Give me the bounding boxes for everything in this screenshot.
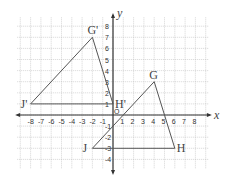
svg-text:-6: -6 [48,118,54,125]
x-arrow-icon [207,113,212,117]
vertex-label: G [149,68,158,82]
vertex-label: H' [115,97,126,111]
svg-text:7: 7 [182,118,186,125]
vertex-label: G' [87,23,98,37]
axes: xyO [15,6,220,175]
svg-text:8: 8 [192,118,196,125]
svg-text:2: 2 [105,90,109,97]
svg-text:8: 8 [105,23,109,30]
svg-text:3: 3 [141,118,145,125]
svg-text:-7: -7 [38,118,44,125]
svg-text:2: 2 [131,118,135,125]
svg-text:4: 4 [105,68,109,75]
vertex-label: J' [21,97,28,111]
x-axis-label: x [213,108,220,122]
svg-text:-8: -8 [28,118,34,125]
vertex-label: H [177,141,186,155]
tick-labels: -8-7-6-5-4-3-2-11234567887654321-1-2-3-4 [28,23,197,163]
svg-text:6: 6 [172,118,176,125]
triangles: GHJG'H'J' [21,23,186,155]
svg-text:-3: -3 [79,118,85,125]
svg-text:4: 4 [151,118,155,125]
y-arrow-icon [111,13,115,18]
svg-text:6: 6 [105,45,109,52]
vertex-label: J [82,141,87,155]
svg-text:-5: -5 [59,118,65,125]
svg-text:1: 1 [120,118,124,125]
coordinate-plane: xyO -8-7-6-5-4-3-2-11234567887654321-1-2… [0,0,231,182]
x-arrow-left-icon [15,113,20,117]
svg-text:5: 5 [105,57,109,64]
svg-text:7: 7 [105,34,109,41]
y-arrow-down-icon [111,170,115,175]
svg-text:-2: -2 [89,118,95,125]
svg-text:-2: -2 [105,134,111,141]
svg-text:5: 5 [162,118,166,125]
svg-text:-4: -4 [105,156,111,163]
y-axis-label: y [116,6,123,20]
svg-text:-4: -4 [69,118,75,125]
